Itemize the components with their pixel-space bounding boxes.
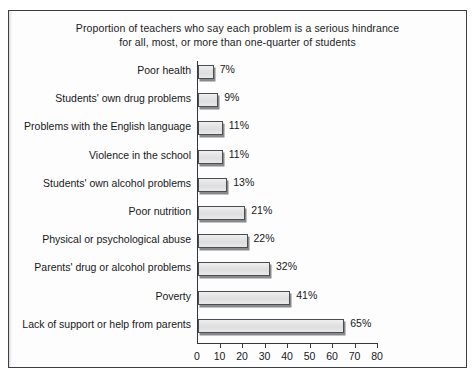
bar-wrapper bbox=[198, 319, 344, 333]
x-axis-tick bbox=[377, 343, 378, 348]
bar-category-label: Poverty bbox=[155, 290, 191, 303]
bar bbox=[198, 178, 227, 192]
bar-value-label: 22% bbox=[254, 232, 275, 244]
bar bbox=[198, 206, 245, 220]
x-axis-tick-label: 0 bbox=[194, 350, 200, 362]
bar-value-label: 32% bbox=[276, 260, 297, 272]
bar-wrapper bbox=[198, 93, 218, 107]
x-axis-tick bbox=[332, 343, 333, 348]
bar bbox=[198, 234, 248, 248]
bar bbox=[198, 291, 290, 305]
bar bbox=[198, 319, 344, 333]
bar-value-label: 21% bbox=[251, 204, 272, 216]
chart-title: Proportion of teachers who say each prob… bbox=[9, 21, 466, 49]
x-axis-tick bbox=[287, 343, 288, 348]
bar-value-label: 11% bbox=[229, 119, 249, 131]
x-axis-tick-label: 30 bbox=[259, 350, 271, 362]
bar bbox=[198, 65, 214, 79]
bar-category-label: Violence in the school bbox=[89, 149, 191, 162]
bar-wrapper bbox=[198, 150, 223, 164]
bar-wrapper bbox=[198, 262, 270, 276]
bar-category-label: Students' own alcohol problems bbox=[43, 177, 191, 190]
x-axis-tick bbox=[220, 343, 221, 348]
bar-value-label: 11% bbox=[229, 148, 249, 160]
bar-wrapper bbox=[198, 178, 227, 192]
x-axis-tick-label: 80 bbox=[371, 350, 383, 362]
plot-area: Poor health7%Students' own drug problems… bbox=[197, 61, 377, 343]
bar bbox=[198, 262, 270, 276]
chart-title-line-2: for all, most, or more than one-quarter … bbox=[9, 35, 466, 49]
bar-wrapper bbox=[198, 234, 248, 248]
x-axis-tick bbox=[242, 343, 243, 348]
bar-wrapper bbox=[198, 121, 223, 135]
bar-category-label: Poor health bbox=[137, 64, 191, 77]
bar bbox=[198, 150, 223, 164]
chart-title-line-1: Proportion of teachers who say each prob… bbox=[9, 21, 466, 35]
bar-value-label: 41% bbox=[296, 289, 317, 301]
x-axis-tick bbox=[265, 343, 266, 348]
bar-category-label: Lack of support or help from parents bbox=[22, 318, 191, 331]
bar-category-label: Problems with the English language bbox=[24, 120, 191, 133]
x-axis-tick-label: 60 bbox=[326, 350, 338, 362]
bar-wrapper bbox=[198, 65, 214, 79]
bar-value-label: 13% bbox=[233, 176, 254, 188]
x-axis-tick-label: 10 bbox=[214, 350, 226, 362]
bar-value-label: 9% bbox=[224, 91, 239, 103]
bar-category-label: Poor nutrition bbox=[129, 205, 191, 218]
chart-frame: Proportion of teachers who say each prob… bbox=[8, 10, 467, 368]
bar-category-label: Parents' drug or alcohol problems bbox=[34, 261, 191, 274]
bar bbox=[198, 93, 218, 107]
x-axis-tick-label: 40 bbox=[281, 350, 293, 362]
bar-category-label: Students' own drug problems bbox=[55, 92, 191, 105]
x-axis-tick bbox=[310, 343, 311, 348]
bar bbox=[198, 121, 223, 135]
x-axis-tick-label: 70 bbox=[349, 350, 361, 362]
x-axis-tick bbox=[355, 343, 356, 348]
bar-wrapper bbox=[198, 206, 245, 220]
bar-value-label: 7% bbox=[220, 63, 235, 75]
bar-category-label: Physical or psychological abuse bbox=[42, 233, 191, 246]
bar-value-label: 65% bbox=[350, 317, 371, 329]
x-axis-tick-label: 50 bbox=[304, 350, 316, 362]
x-axis-tick-label: 20 bbox=[236, 350, 248, 362]
bar-wrapper bbox=[198, 291, 290, 305]
